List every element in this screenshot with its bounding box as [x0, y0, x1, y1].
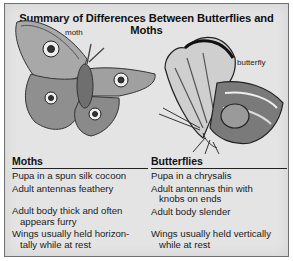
butterflies-item: Adult body slender [151, 207, 287, 218]
moths-item: Pupa in a spun silk cocoon [12, 171, 148, 182]
moths-item: Adult body thick and oftenappears furry [12, 206, 148, 227]
moths-column: Moths Pupa in a spun silk cocoon Adult a… [12, 155, 148, 252]
butterflies-item: Wings usually held verticallywhile at re… [151, 229, 287, 250]
moth-illustration-icon [9, 14, 159, 156]
moths-item: Adult antennas feathery [12, 184, 148, 195]
butterflies-item: Adult antennas thin withknobs on ends [151, 184, 287, 205]
butterfly-illustration-icon [155, 28, 290, 154]
butterflies-column: Butterflies Pupa in a chrysalis Adult an… [151, 155, 287, 252]
butterfly-label: butterfly [237, 58, 265, 67]
butterflies-heading: Butterflies [151, 155, 287, 169]
moths-item: Wings usually held horizon-tally while a… [12, 229, 148, 250]
moths-heading: Moths [12, 155, 148, 169]
butterflies-item: Pupa in a chrysalis [151, 171, 287, 182]
summary-panel: Summary of Differences Between Butterfli… [4, 3, 289, 257]
moth-label: moth [65, 28, 83, 37]
